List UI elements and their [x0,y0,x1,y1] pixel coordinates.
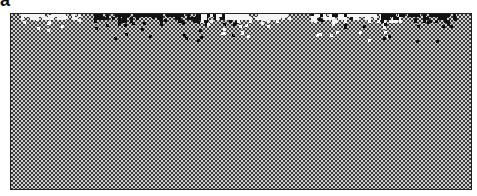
speckle [417,14,420,17]
speckle [383,26,386,29]
speckle [216,17,219,20]
speckle [266,16,269,19]
speckle [368,20,371,23]
speckle [282,17,285,20]
speckle [223,28,226,31]
speckle [160,23,163,26]
speckle [226,14,229,17]
speckle [314,20,317,23]
speckle [118,23,121,26]
speckle [436,40,439,43]
speckle [278,16,281,19]
speckle [61,25,64,28]
speckle [440,14,443,17]
speckle [344,26,347,29]
speckle [247,35,250,38]
speckle [21,17,24,20]
speckle [239,25,242,28]
speckle [183,34,186,37]
speckle [124,20,127,23]
speckle [207,23,210,26]
speckle [267,20,270,23]
speckle [65,16,68,19]
speckle [423,20,426,23]
speckle [245,24,248,27]
speckle [37,27,40,30]
speckle [185,37,188,40]
speckle [318,18,321,21]
speckle [237,20,240,23]
speckle [317,14,320,17]
speckle [450,25,453,28]
speckle [48,15,51,18]
speckle [199,29,202,32]
speckle [48,21,51,24]
speckle [164,19,167,22]
speckle [51,17,54,20]
speckle [325,17,328,20]
dithered-figure-frame [10,13,472,190]
speckle [124,24,127,27]
speckle [359,31,362,34]
speckle [95,17,98,20]
speckle [229,20,232,23]
speckle [78,19,81,22]
speckle [136,17,139,20]
speckle [319,33,322,36]
speckle [143,22,146,25]
speckle [442,25,445,28]
speckle [221,32,224,35]
speckle [311,19,314,22]
speckle [383,37,386,40]
speckle [94,20,97,23]
speckle [125,33,128,36]
speckle [23,21,26,24]
speckle [344,20,347,23]
speckle [219,14,222,17]
speckle [390,14,393,17]
speckle [181,14,184,17]
speckle [356,17,359,20]
speckle [197,21,200,24]
speckle [332,23,335,26]
speckle [399,20,402,23]
speckle [377,20,380,23]
speckle [288,17,291,20]
speckle [395,20,398,23]
speckle [132,22,135,25]
speckle [388,35,391,38]
speckle [261,22,264,25]
speckle [387,17,390,20]
speckle [276,20,279,23]
speckle [335,20,338,23]
speckle [417,25,420,28]
speckle [210,20,213,23]
speckle [241,31,244,34]
speckle [200,36,203,39]
speckle [396,17,399,20]
speckle [435,20,438,23]
speckle [47,29,50,32]
speckle [368,39,371,42]
speckle [106,24,109,27]
speckle [427,21,430,24]
speckle [232,34,235,37]
speckle [454,18,457,21]
speckle [249,20,252,23]
speckle [122,17,125,20]
speckle [210,14,213,17]
speckle-band [11,14,471,40]
speckle [416,40,419,43]
speckle [149,35,152,38]
speckle [36,18,39,21]
speckle [223,23,226,26]
speckle [402,14,405,17]
panel-label: a [0,0,10,9]
speckle [112,17,115,20]
speckle [204,17,207,20]
speckle [384,23,387,26]
speckle [114,37,117,40]
speckle [414,18,417,21]
speckle [106,17,109,20]
speckle [141,28,144,31]
